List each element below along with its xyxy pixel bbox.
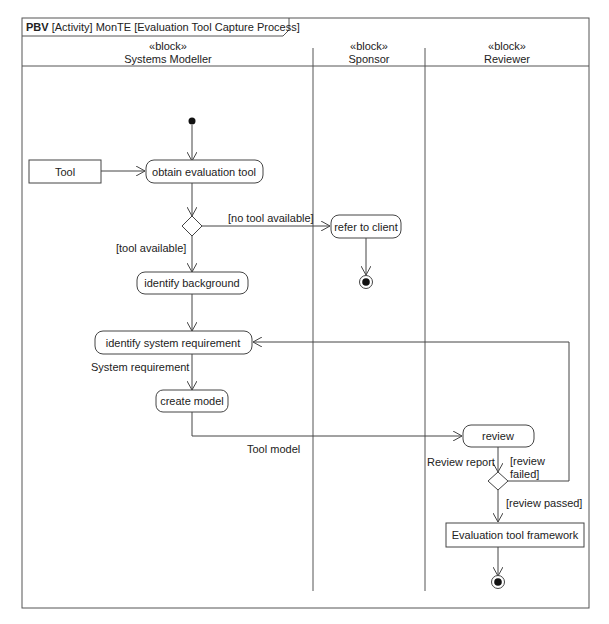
guard-review-passed: [review passed]	[506, 497, 582, 509]
guard-tool-available: [tool available]	[116, 242, 186, 254]
svg-text:identify background: identify background	[144, 277, 239, 289]
lane-header-sponsor: «block» Sponsor	[349, 40, 390, 65]
svg-text:Evaluation tool framework: Evaluation tool framework	[452, 529, 579, 541]
svg-text:refer to client: refer to client	[334, 221, 398, 233]
svg-text:«block»: «block»	[149, 40, 187, 52]
svg-text:«block»: «block»	[350, 40, 388, 52]
svg-text:identify system requirement: identify system requirement	[106, 337, 241, 349]
initial-node	[189, 118, 196, 125]
activity-final-node-reviewer	[492, 576, 505, 589]
svg-text:«block»: «block»	[488, 40, 526, 52]
activity-final-node-sponsor	[360, 276, 373, 289]
svg-text:Systems Modeller: Systems Modeller	[124, 53, 212, 65]
object-node-tool-label: Tool	[55, 166, 75, 178]
guard-review-failed-line2: failed]	[510, 468, 539, 480]
object-flow-review-report: Review report	[427, 456, 495, 468]
svg-text:create model: create model	[160, 395, 224, 407]
diagram-frame	[22, 18, 589, 608]
svg-text:Sponsor: Sponsor	[349, 53, 390, 65]
object-flow-system-requirement: System requirement	[91, 361, 189, 373]
svg-text:review: review	[482, 430, 514, 442]
lane-header-reviewer: «block» Reviewer	[484, 40, 530, 65]
guard-no-tool-available: [no tool available]	[228, 212, 314, 224]
activity-diagram: PBV [Activity] MonTE [Evaluation Tool Ca…	[0, 0, 609, 624]
frame-title: PBV [Activity] MonTE [Evaluation Tool Ca…	[26, 21, 300, 33]
object-flow-tool-model: Tool model	[247, 443, 300, 455]
svg-text:obtain evaluation tool: obtain evaluation tool	[152, 166, 256, 178]
svg-text:Reviewer: Reviewer	[484, 53, 530, 65]
guard-review-failed-line1: [review	[510, 455, 545, 467]
